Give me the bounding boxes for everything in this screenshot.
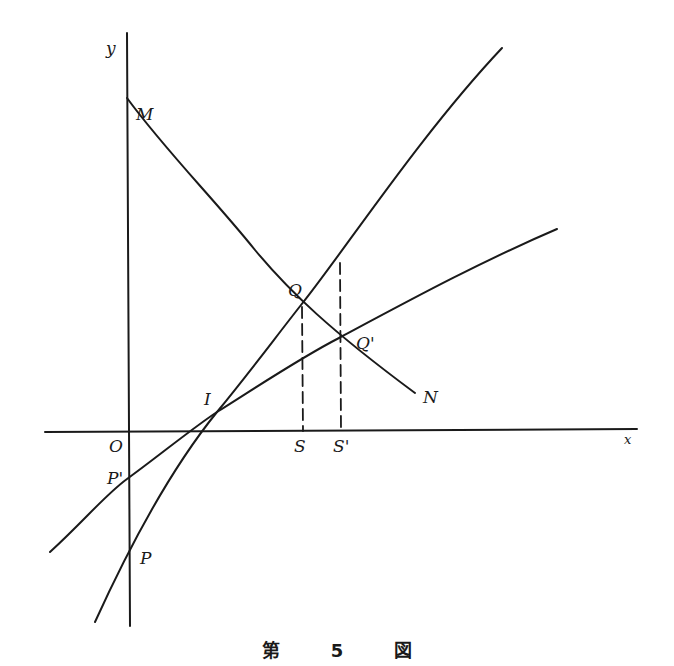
curve-p-prime-q-prime (50, 229, 557, 552)
point-label-p-prime: P' (106, 468, 123, 488)
point-label-i: I (203, 389, 211, 409)
dashed-line-q-prime-s-prime (340, 263, 341, 430)
x-axis (45, 429, 637, 432)
diagram-figure: y x O M Q Q' N I S S' P' P (0, 0, 674, 666)
point-label-s: S (294, 436, 306, 456)
point-label-p: P (139, 548, 152, 568)
origin-label: O (109, 436, 123, 456)
point-label-q-prime: Q' (356, 333, 375, 353)
y-axis (127, 33, 130, 626)
caption-suffix: 図 (394, 636, 412, 662)
point-label-s-prime: S' (333, 436, 349, 456)
dashed-line-qs (302, 307, 303, 431)
figure-caption: 第 5 図 (0, 636, 674, 662)
point-label-q: Q (288, 280, 302, 300)
caption-number: 5 (331, 640, 344, 661)
point-label-n: N (422, 387, 439, 407)
x-axis-label: x (624, 432, 632, 447)
point-label-m: M (135, 104, 154, 124)
y-axis-label: y (105, 38, 116, 58)
caption-prefix: 第 (262, 636, 280, 662)
